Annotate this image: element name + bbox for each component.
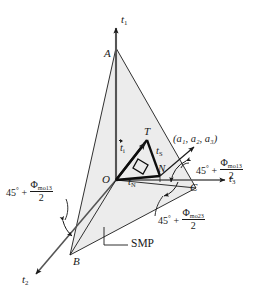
axis-label-t1: t1 [121,14,127,27]
point-label-c: C [190,182,197,193]
smp-geometry-diagram [0,0,267,294]
vector-label-ts: tS [156,146,163,157]
angle-label-right: 45° + Φmo132 [196,158,243,181]
point-label-t: T [144,126,150,137]
axis-label-t2: t2 [22,274,28,287]
coordinates-label: (a₁, a₂, a₃) [173,134,217,145]
vector-label-ti: ti [120,143,125,154]
leader-left-angle [65,199,68,220]
point-label-n: N [158,163,165,174]
point-label-b: B [73,256,80,267]
angle-label-bottom: 45° + Φmo232 [158,208,205,231]
smp-label: SMP [131,238,154,250]
point-label-o: O [102,174,110,185]
vector-label-tn: tN [128,177,136,188]
angle-label-left: 45° + Φmo132 [6,180,53,203]
point-label-a: A [104,48,111,59]
